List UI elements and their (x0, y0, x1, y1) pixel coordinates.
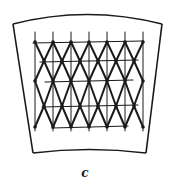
diagonal-strut (125, 61, 134, 81)
figure-label: c (0, 166, 170, 180)
diagonal-strut (89, 106, 98, 127)
horizontal-grid-line (42, 105, 138, 107)
diagonal-strut (80, 42, 89, 61)
lattice-node (96, 104, 100, 108)
diagonal-strut (116, 61, 125, 81)
lattice-node (42, 104, 46, 108)
diagonal-strut (80, 106, 89, 127)
frame-right-edge (146, 24, 162, 153)
diagonal-strut (125, 81, 134, 106)
diagonal-strut (98, 61, 107, 81)
diagonal-strut (98, 106, 107, 127)
lattice-node (87, 125, 91, 129)
diagonal-strut (53, 106, 62, 127)
diagonal-strut (107, 42, 116, 61)
lattice-node (105, 79, 109, 83)
lattice-node (87, 40, 91, 44)
lattice-node (33, 79, 37, 83)
diagonal-strut (80, 81, 89, 106)
lattice-node (123, 40, 127, 44)
lattice-node (51, 125, 55, 129)
lattice-node (141, 79, 145, 83)
diagonal-strut (80, 61, 89, 81)
diagonal-strut (71, 106, 80, 127)
diagonal-strut (107, 106, 116, 127)
lattice-node (60, 104, 64, 108)
diagonal-strut (53, 81, 62, 106)
diagonal-strut (107, 61, 116, 81)
diagonal-strut (125, 106, 134, 127)
diagonal-strut (62, 42, 71, 61)
diagonal-strut (98, 42, 107, 61)
lattice-node (132, 59, 136, 63)
diagonal-strut (62, 81, 71, 106)
lattice-node (69, 40, 73, 44)
triangulated-lattice (33, 32, 145, 131)
diagonal-strut (116, 106, 125, 127)
diagram-figure (0, 0, 170, 183)
lattice-node (105, 125, 109, 129)
diagonal-strut (134, 42, 143, 61)
diagonal-strut (71, 42, 80, 61)
diagonal-strut (35, 61, 44, 81)
lattice-node (132, 104, 136, 108)
lattice-node (69, 125, 73, 129)
diagonal-strut (44, 106, 53, 127)
diagonal-strut (134, 106, 143, 127)
lattice-node (114, 104, 118, 108)
diagonal-strut (134, 81, 143, 106)
lattice-node (69, 79, 73, 83)
diagonal-strut (53, 61, 62, 81)
lattice-node (141, 125, 145, 129)
diagonal-strut (44, 61, 53, 81)
lattice-node (51, 79, 55, 83)
diagonal-strut (44, 81, 53, 106)
diagonal-strut (107, 81, 116, 106)
diagonal-strut (98, 81, 107, 106)
diagonal-strut (62, 61, 71, 81)
diagonal-strut (53, 42, 62, 61)
lattice-node (33, 40, 37, 44)
lattice-node (51, 40, 55, 44)
diagonal-strut (89, 42, 98, 61)
diagonal-strut (125, 42, 134, 61)
diagonal-strut (89, 61, 98, 81)
lattice-node (114, 59, 118, 63)
diagonal-strut (44, 42, 53, 61)
diagonal-strut (134, 61, 143, 81)
frame-left-edge (13, 24, 33, 153)
lattice-node (33, 125, 37, 129)
lattice-node (78, 104, 82, 108)
lattice-node (141, 40, 145, 44)
diagonal-strut (89, 81, 98, 106)
diagonal-strut (116, 42, 125, 61)
diagonal-strut (35, 106, 44, 127)
lattice-node (123, 79, 127, 83)
diagonal-strut (35, 81, 44, 106)
frame-top-edge (13, 15, 162, 25)
lattice-node (60, 59, 64, 63)
frame-bottom-edge (33, 150, 146, 154)
lattice-node (96, 59, 100, 63)
lattice-node (123, 125, 127, 129)
diagonal-strut (35, 42, 44, 61)
diagonal-strut (62, 106, 71, 127)
lattice-node (78, 59, 82, 63)
lattice-node (87, 79, 91, 83)
diagonal-strut (116, 81, 125, 106)
diagonal-strut (71, 61, 80, 81)
lattice-node (42, 59, 46, 63)
diagonal-strut (71, 81, 80, 106)
lattice-node (105, 40, 109, 44)
